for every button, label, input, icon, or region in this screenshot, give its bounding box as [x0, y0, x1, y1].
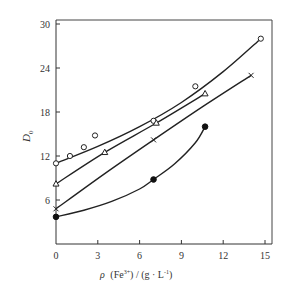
- open-triangle-marker: [202, 90, 208, 95]
- cross-marker: [151, 137, 156, 142]
- open-circle-marker: [67, 153, 72, 158]
- y-tick-label: 24: [40, 63, 50, 74]
- series-line-filled-circle: [56, 127, 205, 217]
- open-triangle-marker: [53, 181, 59, 186]
- open-circle-marker: [193, 84, 198, 89]
- x-tick-label: 15: [260, 250, 270, 261]
- open-circle-marker: [258, 36, 263, 41]
- series-line-open-circle: [56, 39, 261, 164]
- x-ticks: 03691215: [54, 240, 271, 261]
- chart: 03691215 612182430 ρ (Fe3+) / (g · L-1) …: [0, 0, 285, 290]
- x-tick-label: 3: [95, 250, 100, 261]
- x-tick-label: 6: [137, 250, 142, 261]
- y-tick-label: 18: [40, 107, 50, 118]
- filled-circle-marker: [151, 177, 157, 183]
- cross-marker: [249, 73, 254, 78]
- series-line-open-triangle: [56, 94, 205, 184]
- series-lines: [56, 39, 261, 217]
- filled-circle-marker: [53, 214, 59, 220]
- y-tick-label: 12: [40, 151, 50, 162]
- x-axis-label: ρ (Fe3+) / (g · L-1): [99, 269, 172, 281]
- y-ticks: 612182430: [40, 19, 60, 206]
- filled-circle-marker: [202, 124, 208, 130]
- y-tick-label: 30: [40, 19, 50, 30]
- open-circle-marker: [53, 161, 58, 166]
- y-tick-label: 6: [45, 195, 50, 206]
- series-line-cross: [56, 75, 251, 208]
- y-axis-label: D0: [20, 130, 35, 143]
- open-circle-marker: [81, 145, 86, 150]
- x-tick-label: 12: [218, 250, 228, 261]
- x-tick-label: 0: [54, 250, 59, 261]
- open-circle-marker: [92, 133, 97, 138]
- x-tick-label: 9: [179, 250, 184, 261]
